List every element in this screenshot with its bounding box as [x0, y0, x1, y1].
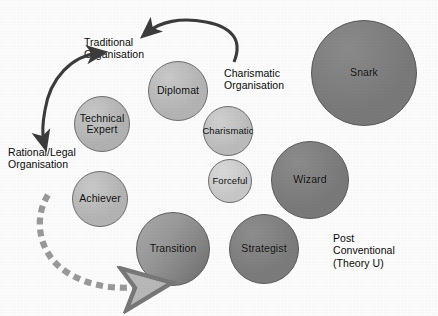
node-label: Technical Expert	[75, 113, 129, 136]
node-label: Diplomat	[157, 85, 199, 96]
node-label: Charismatic	[202, 126, 253, 136]
node-technical-expert[interactable]: Technical Expert	[74, 96, 130, 152]
node-wizard[interactable]: Wizard	[271, 141, 349, 219]
node-label: Wizard	[293, 174, 326, 185]
node-charismatic[interactable]: Charismatic	[203, 106, 253, 156]
caption-post-conventional: Post Conventional (Theory U)	[333, 232, 395, 269]
node-diplomat[interactable]: Diplomat	[148, 61, 208, 121]
node-achiever[interactable]: Achiever	[72, 171, 128, 227]
node-label: Transition	[150, 243, 197, 254]
node-label: Achiever	[79, 193, 121, 204]
node-label: Strategist	[241, 243, 286, 254]
node-snark[interactable]: Snark	[311, 20, 417, 126]
node-transition[interactable]: Transition	[136, 212, 210, 286]
caption-charismatic-organisation: Charismatic Organisation	[224, 67, 284, 92]
caption-traditional-organisation: Traditional Organisation	[84, 36, 144, 61]
node-label: Forceful	[212, 176, 247, 186]
node-label: Snark	[350, 67, 378, 78]
arrow-charismatic-to-traditional	[148, 20, 237, 62]
node-strategist[interactable]: Strategist	[229, 214, 299, 284]
caption-rational-legal-organisation: Rational/Legal Organisation	[8, 146, 76, 171]
node-forceful[interactable]: Forceful	[208, 159, 252, 203]
diagram-canvas: Diplomat Technical Expert Charismatic Fo…	[0, 0, 438, 316]
